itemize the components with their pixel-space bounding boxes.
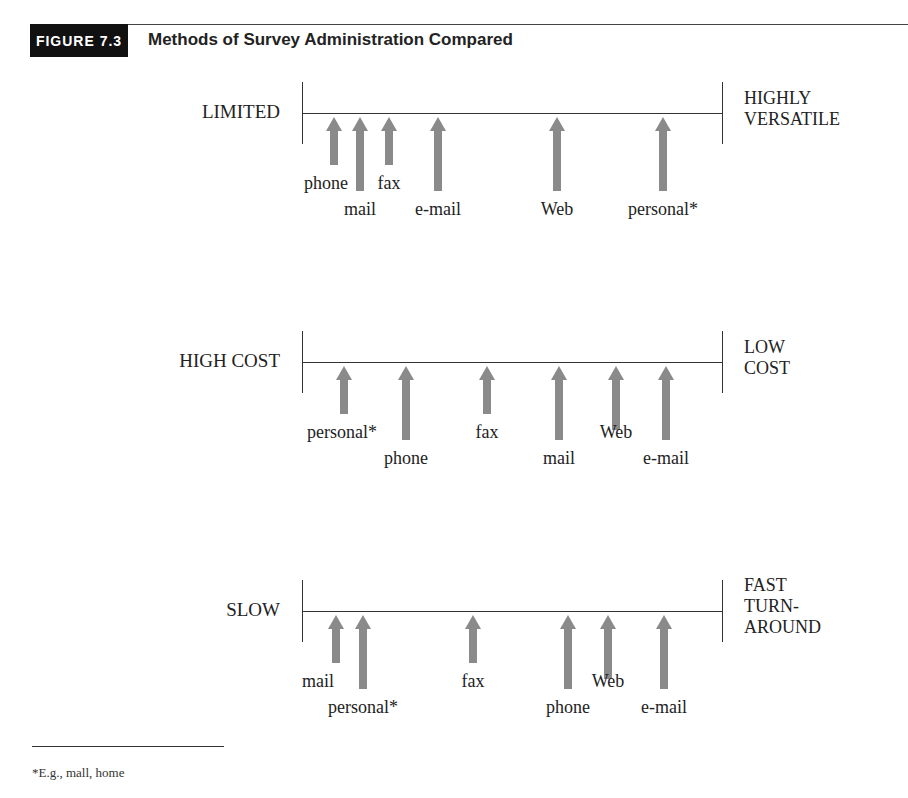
up-arrow-icon — [551, 366, 567, 440]
up-arrow-icon — [658, 366, 674, 440]
scale-left-tick — [302, 580, 303, 642]
up-arrow-icon — [656, 615, 672, 689]
method-label: mail — [344, 199, 376, 220]
scale-axis-line — [302, 362, 722, 363]
up-arrow-icon — [352, 117, 368, 191]
up-arrow-icon — [398, 366, 414, 440]
method-label: personal* — [628, 199, 698, 220]
scale-right-label: LOW COST — [744, 337, 790, 379]
scale-axis-line — [302, 611, 722, 612]
method-label: fax — [476, 422, 499, 443]
figure-number-badge: FIGURE 7.3 — [30, 24, 128, 57]
up-arrow-icon — [430, 117, 446, 191]
scale-right-tick — [722, 331, 723, 393]
up-arrow-icon — [479, 366, 495, 414]
scale-right-tick — [722, 580, 723, 642]
up-arrow-icon — [328, 615, 344, 663]
up-arrow-icon — [655, 117, 671, 191]
up-arrow-icon — [549, 117, 565, 191]
method-label: e-mail — [641, 697, 687, 718]
method-label: phone — [304, 173, 348, 194]
method-label: personal* — [307, 422, 377, 443]
figure-number: FIGURE 7.3 — [36, 33, 122, 49]
up-arrow-icon — [560, 615, 576, 689]
scale-right-label: FAST TURN- AROUND — [744, 575, 821, 638]
scale-axis-line — [302, 113, 722, 114]
method-label: phone — [384, 448, 428, 469]
footnote-rule — [32, 746, 224, 747]
footnote: *E.g., mall, home — [32, 765, 124, 781]
scale-right-label: HIGHLY VERSATILE — [744, 88, 840, 130]
figure-title: Methods of Survey Administration Compare… — [148, 30, 513, 50]
method-label: e-mail — [643, 448, 689, 469]
up-arrow-icon — [608, 366, 624, 430]
scale-left-tick — [302, 82, 303, 144]
scale-left-label: LIMITED — [202, 101, 280, 123]
up-arrow-icon — [465, 615, 481, 663]
method-label: Web — [541, 199, 574, 220]
method-label: fax — [462, 671, 485, 692]
up-arrow-icon — [355, 615, 371, 689]
method-label: Web — [592, 671, 625, 692]
method-label: Web — [600, 422, 633, 443]
up-arrow-icon — [326, 117, 342, 165]
up-arrow-icon — [336, 366, 352, 414]
scale-left-label: SLOW — [226, 599, 280, 621]
up-arrow-icon — [381, 117, 397, 165]
method-label: mail — [302, 671, 334, 692]
header-rule — [30, 24, 908, 25]
scale-left-label: HIGH COST — [179, 350, 280, 372]
up-arrow-icon — [600, 615, 616, 679]
method-label: e-mail — [415, 199, 461, 220]
method-label: phone — [546, 697, 590, 718]
method-label: fax — [378, 173, 401, 194]
method-label: personal* — [328, 697, 398, 718]
scale-right-tick — [722, 82, 723, 144]
scale-left-tick — [302, 331, 303, 393]
method-label: mail — [543, 448, 575, 469]
